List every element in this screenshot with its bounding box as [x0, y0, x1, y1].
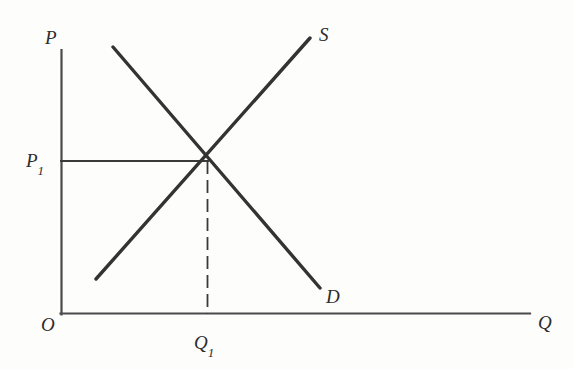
equilibrium-quantity-subscript: 1	[208, 345, 215, 360]
supply-curve-label: S	[319, 25, 329, 44]
price-axis-label: P	[45, 28, 57, 47]
supply-curve	[96, 38, 310, 279]
origin-label: O	[41, 315, 55, 334]
equilibrium-price-label: P1	[26, 151, 44, 174]
demand-curve-label: D	[326, 287, 340, 306]
equilibrium-price-symbol: P	[26, 150, 38, 171]
quantity-axis-label: Q	[538, 313, 552, 332]
supply-demand-diagram	[0, 0, 573, 369]
figure-canvas: P P1 O Q1 Q S D	[0, 0, 573, 369]
equilibrium-quantity-symbol: Q	[194, 332, 208, 353]
demand-curve	[113, 47, 320, 288]
equilibrium-price-subscript: 1	[38, 163, 45, 178]
equilibrium-quantity-label: Q1	[194, 333, 214, 356]
